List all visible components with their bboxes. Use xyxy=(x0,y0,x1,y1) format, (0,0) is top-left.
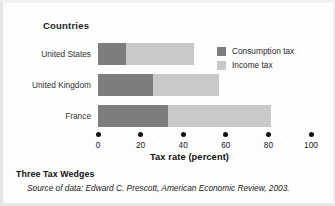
x-axis-tick-label: 80 xyxy=(264,140,273,150)
chart-legend: Consumption tax Income tax xyxy=(217,46,294,74)
legend-swatch-icon xyxy=(217,47,226,56)
x-axis: Tax rate (percent) 020406080100 xyxy=(3,129,333,163)
figure-caption: Three Tax Wedges Source of data: Edward … xyxy=(16,169,332,193)
bar-segment-income-tax xyxy=(168,105,270,127)
x-axis-tick-label: 100 xyxy=(304,140,318,150)
x-axis-tick-label: 20 xyxy=(136,140,145,150)
row-label: United States xyxy=(3,49,91,59)
row-label: France xyxy=(3,111,91,121)
x-axis-tick-dot xyxy=(223,132,228,137)
legend-swatch-icon xyxy=(217,61,226,70)
chart-plot-area: Countries United States United Kingdom F… xyxy=(3,3,333,163)
figure-panel: Countries United States United Kingdom F… xyxy=(0,0,335,206)
x-axis-tick-dot xyxy=(266,132,271,137)
legend-label: Income tax xyxy=(232,60,273,70)
row-label: United Kingdom xyxy=(3,80,91,90)
x-axis-tick-label: 0 xyxy=(96,140,101,150)
legend-item-income-tax: Income tax xyxy=(217,60,294,70)
bar-segment-consumption-tax xyxy=(98,43,126,65)
stacked-bar xyxy=(98,74,219,96)
x-axis-tick-dot xyxy=(309,132,314,137)
x-axis-title: Tax rate (percent) xyxy=(150,152,229,162)
x-axis-tick-label: 60 xyxy=(221,140,230,150)
category-axis-label: Countries xyxy=(43,20,89,31)
bar-segment-consumption-tax xyxy=(98,74,153,96)
x-axis-tick-dot xyxy=(96,132,101,137)
x-axis-tick-label: 40 xyxy=(179,140,188,150)
legend-item-consumption-tax: Consumption tax xyxy=(217,46,294,56)
bar-segment-consumption-tax xyxy=(98,105,168,127)
legend-label: Consumption tax xyxy=(232,46,294,56)
x-axis-tick-dot xyxy=(138,132,143,137)
stacked-bar xyxy=(98,105,271,127)
bar-segment-income-tax xyxy=(126,43,194,65)
stacked-bar xyxy=(98,43,194,65)
caption-title: Three Tax Wedges xyxy=(16,169,332,179)
caption-source: Source of data: Edward C. Prescott, Amer… xyxy=(16,183,332,193)
x-axis-tick-dot xyxy=(181,132,186,137)
bar-segment-income-tax xyxy=(153,74,219,96)
